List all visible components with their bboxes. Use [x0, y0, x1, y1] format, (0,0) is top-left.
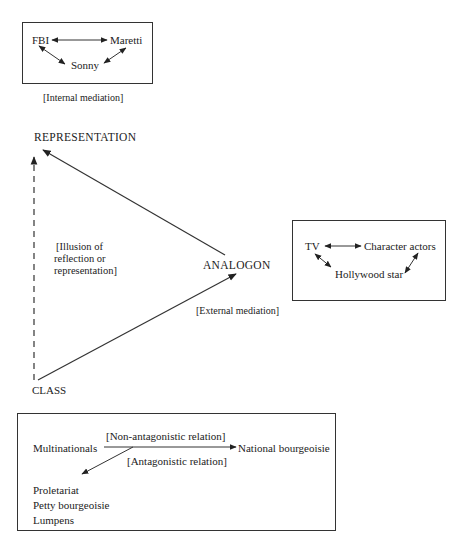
node-maretti: Maretti [110, 35, 142, 46]
node-hollywood-star: Hollywood star [335, 269, 403, 280]
node-multinationals: Multinationals [33, 443, 97, 454]
node-tv: TV [305, 241, 320, 252]
class-lumpens: Lumpens [33, 515, 74, 526]
node-character-actors: Character actors [364, 241, 436, 252]
external-mediation-caption: [External mediation] [196, 306, 279, 316]
node-fbi: FBI [32, 35, 49, 46]
internal-mediation-caption: [Internal mediation] [43, 93, 123, 103]
node-sonny: Sonny [71, 60, 99, 71]
class-proletariat: Proletariat [33, 485, 79, 496]
antagonistic-label: [Antagonistic relation] [127, 456, 227, 467]
illusion-label-line2: reflection or [54, 254, 106, 265]
non-antagonistic-label: [Non-antagonistic relation] [106, 431, 225, 442]
node-class: CLASS [32, 385, 66, 396]
external-mediation-box [292, 220, 446, 301]
node-analogon: ANALOGON [203, 260, 271, 272]
illusion-label-line1: [Illusion of [56, 242, 103, 253]
node-national-bourgeoisie: National bourgeoisie [238, 443, 330, 454]
internal-mediation-box [22, 22, 153, 84]
illusion-label-line3: representation] [54, 266, 117, 277]
class-petty-bourgeoisie: Petty bourgeoisie [33, 500, 109, 511]
node-representation: REPRESENTATION [34, 132, 136, 144]
